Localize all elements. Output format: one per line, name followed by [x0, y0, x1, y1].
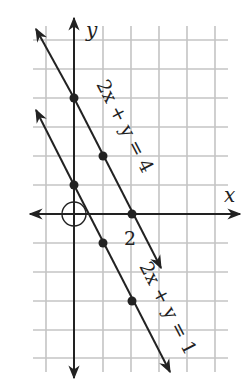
coordinate-graph: x y 2 2x + y = 4 2x + y = 1: [0, 0, 248, 388]
point-1-neg1: [99, 239, 108, 248]
point-0-1: [70, 181, 79, 190]
line-2x-plus-y-equals-1: [36, 110, 74, 185]
x-tick-label-2: 2: [124, 227, 136, 249]
x-axis-label: x: [224, 183, 235, 207]
y-axis-label: y: [85, 18, 98, 42]
point-1-2: [99, 152, 108, 161]
point-2-0: [128, 210, 137, 219]
point-0-4: [70, 94, 79, 103]
point-2-neg3: [128, 297, 137, 306]
